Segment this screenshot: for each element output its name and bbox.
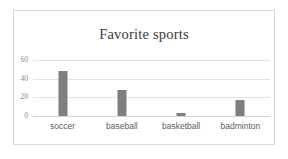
bar-baseball[interactable] (117, 90, 126, 116)
bar-soccer[interactable] (58, 71, 67, 116)
y-tick-label-40: 40 (6, 75, 28, 83)
x-tick-label-baseball: baseball (92, 120, 151, 132)
chart-container: Favorite sports 60 40 20 0 soccer baseba… (0, 0, 288, 159)
x-tick-label-badminton: badminton (211, 120, 270, 132)
x-tick-label-basketball: basketball (152, 120, 211, 132)
axis-baseline-0 (33, 116, 270, 117)
y-tick-label-0: 0 (6, 112, 28, 120)
x-axis: soccer baseball basketball badminton (33, 120, 270, 134)
bar-slot-basketball (152, 60, 211, 116)
x-tick-label-soccer: soccer (33, 120, 92, 132)
bar-basketball[interactable] (177, 113, 186, 116)
bar-slot-badminton (211, 60, 270, 116)
y-tick-label-60: 60 (6, 56, 28, 64)
bars-layer (33, 60, 270, 116)
bar-badminton[interactable] (236, 100, 245, 116)
bar-slot-baseball (92, 60, 151, 116)
bar-slot-soccer (33, 60, 92, 116)
chart-title: Favorite sports (0, 26, 288, 43)
y-tick-label-20: 20 (6, 93, 28, 101)
